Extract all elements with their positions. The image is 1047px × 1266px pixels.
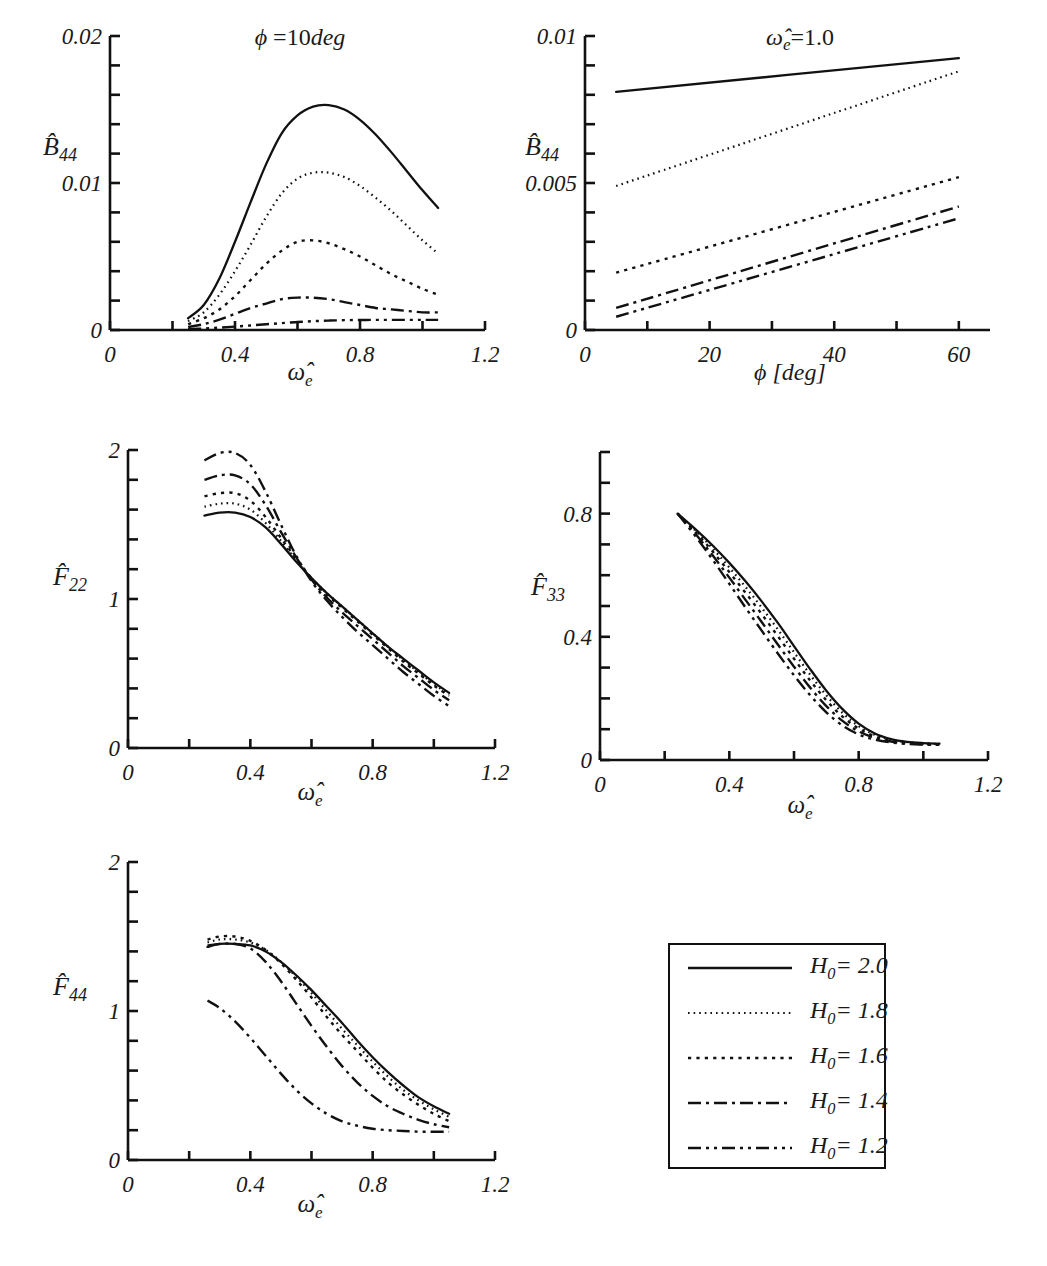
svg-text:0.8: 0.8 xyxy=(346,342,375,367)
series-line xyxy=(204,512,449,693)
legend-line-sample xyxy=(686,957,794,979)
svg-text:ω̂e: ω̂e xyxy=(297,778,325,810)
svg-text:0.8: 0.8 xyxy=(563,502,592,527)
series-line xyxy=(616,58,959,92)
series-line xyxy=(188,172,438,321)
svg-text:0: 0 xyxy=(122,1172,134,1197)
svg-text:0.01: 0.01 xyxy=(537,24,577,49)
legend-line-sample xyxy=(686,1092,794,1114)
svg-text:0: 0 xyxy=(104,342,116,367)
svg-text:40: 40 xyxy=(823,342,847,367)
svg-text:0: 0 xyxy=(109,1148,121,1173)
svg-text:B̂44: B̂44 xyxy=(43,132,77,165)
svg-text:0.01: 0.01 xyxy=(62,171,102,196)
legend-item: H0= 1.2 xyxy=(670,1125,884,1170)
svg-text:0.4: 0.4 xyxy=(563,625,592,650)
legend-line-sample xyxy=(686,1002,794,1024)
chart-b44-vs-omega: 00.40.81.200.010.02ϕ =10degω̂eB̂44 xyxy=(0,0,520,400)
svg-text:ω̂e: ω̂e xyxy=(297,1190,325,1222)
legend-label: H0= 2.0 xyxy=(810,952,888,984)
x-axis-label: ω̂e xyxy=(297,1190,325,1222)
x-axis-label: ω̂e xyxy=(787,791,815,823)
svg-text:F̂22: F̂22 xyxy=(52,562,87,595)
svg-text:0: 0 xyxy=(581,748,593,773)
svg-text:0.4: 0.4 xyxy=(221,342,250,367)
svg-text:1.2: 1.2 xyxy=(481,760,510,785)
legend-label: H0= 1.4 xyxy=(810,1087,888,1119)
svg-text:0: 0 xyxy=(109,736,121,761)
legend-item: H0= 2.0 xyxy=(670,945,884,990)
svg-text:1.2: 1.2 xyxy=(481,1172,510,1197)
plot-area-2: 020406000.0050.01ω̂e=1.0ϕ [deg]B̂44 xyxy=(525,24,990,385)
svg-text:20: 20 xyxy=(698,342,722,367)
svg-text:1: 1 xyxy=(109,587,121,612)
panel-f22: 00.40.81.2012ω̂eF̂22 xyxy=(0,415,520,835)
series-line xyxy=(616,218,959,316)
chart-title: ω̂e=1.0 xyxy=(766,24,834,54)
x-axis-label: ω̂e xyxy=(297,778,325,810)
series-line xyxy=(208,944,450,1114)
svg-text:60: 60 xyxy=(947,342,971,367)
series-line xyxy=(188,297,438,327)
series-line xyxy=(678,514,940,744)
series-line xyxy=(208,1001,450,1132)
legend-label: H0= 1.6 xyxy=(810,1042,888,1074)
legend-item: H0= 1.4 xyxy=(670,1080,884,1125)
svg-text:1: 1 xyxy=(109,999,121,1024)
y-axis-label: B̂44 xyxy=(525,132,559,165)
svg-text:0.005: 0.005 xyxy=(525,171,577,196)
svg-text:2: 2 xyxy=(109,850,121,875)
series-line xyxy=(188,240,438,324)
legend-label: H0= 1.2 xyxy=(810,1132,888,1164)
series-line xyxy=(208,939,450,1117)
series-line xyxy=(616,71,959,186)
svg-text:ω̂e: ω̂e xyxy=(787,791,815,823)
svg-text:B̂44: B̂44 xyxy=(525,132,559,165)
svg-text:0.8: 0.8 xyxy=(358,1172,387,1197)
svg-text:ϕ [deg]: ϕ [deg] xyxy=(754,359,826,385)
y-axis-label: F̂22 xyxy=(52,562,87,595)
legend-line-sample xyxy=(686,1137,794,1159)
chart-f22: 00.40.81.2012ω̂eF̂22 xyxy=(0,415,520,835)
panel-f44: 00.40.81.2012ω̂eF̂44 xyxy=(0,840,520,1266)
svg-text:0: 0 xyxy=(594,772,606,797)
svg-text:ω̂e: ω̂e xyxy=(287,358,315,390)
svg-text:0.4: 0.4 xyxy=(236,760,265,785)
plot-area-1: 00.40.81.200.010.02ϕ =10degω̂eB̂44 xyxy=(43,24,499,390)
y-axis-label: F̂33 xyxy=(530,572,565,605)
svg-text:F̂44: F̂44 xyxy=(52,972,87,1005)
series-line xyxy=(208,944,450,1128)
series-line xyxy=(616,177,959,273)
plot-area-3: 00.40.81.2012ω̂eF̂22 xyxy=(52,438,509,810)
x-axis-label: ϕ [deg] xyxy=(754,359,826,385)
svg-text:ϕ =10deg: ϕ =10deg xyxy=(255,24,346,50)
series-line xyxy=(188,105,438,318)
svg-text:0.8: 0.8 xyxy=(358,760,387,785)
series-line xyxy=(188,320,438,329)
svg-text:1.2: 1.2 xyxy=(974,772,1003,797)
svg-text:2: 2 xyxy=(109,438,121,463)
svg-text:F̂33: F̂33 xyxy=(530,572,565,605)
svg-text:0: 0 xyxy=(91,318,103,343)
chart-title: ϕ =10deg xyxy=(255,24,346,50)
series-line xyxy=(616,207,959,308)
panel-b44-vs-phi: 020406000.0050.01ω̂e=1.0ϕ [deg]B̂44 xyxy=(500,0,1047,400)
legend-item: H0= 1.8 xyxy=(670,990,884,1035)
svg-text:1.2: 1.2 xyxy=(471,342,500,367)
panel-b44-vs-omega: 00.40.81.200.010.02ϕ =10degω̂eB̂44 xyxy=(0,0,520,400)
plot-area-5: 00.40.81.2012ω̂eF̂44 xyxy=(52,850,509,1222)
panel-f33: 00.40.81.200.40.8ω̂eF̂33 xyxy=(520,415,1047,835)
svg-text:0.02: 0.02 xyxy=(62,24,102,49)
svg-text:0.8: 0.8 xyxy=(844,772,873,797)
svg-text:0: 0 xyxy=(566,318,578,343)
chart-b44-vs-phi: 020406000.0050.01ω̂e=1.0ϕ [deg]B̂44 xyxy=(500,0,1047,400)
svg-text:0: 0 xyxy=(122,760,134,785)
plot-area-4: 00.40.81.200.40.8ω̂eF̂33 xyxy=(530,452,1002,823)
y-axis-label: F̂44 xyxy=(52,972,87,1005)
svg-text:ω̂e=1.0: ω̂e=1.0 xyxy=(766,24,834,54)
series-legend: H0= 2.0H0= 1.8H0= 1.6H0= 1.4H0= 1.2 xyxy=(668,943,886,1169)
svg-text:0.4: 0.4 xyxy=(236,1172,265,1197)
legend-line-sample xyxy=(686,1047,794,1069)
chart-f33: 00.40.81.200.40.8ω̂eF̂33 xyxy=(520,415,1047,835)
legend-item: H0= 1.6 xyxy=(670,1035,884,1080)
